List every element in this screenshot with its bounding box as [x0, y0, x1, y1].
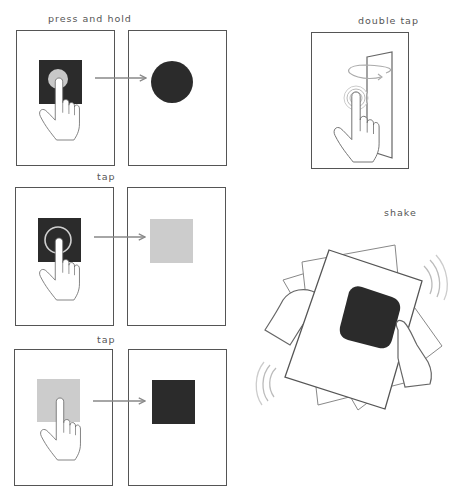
dark-circle-result	[151, 61, 193, 103]
motion-lines-icon	[270, 368, 276, 397]
double-tap-illustration	[334, 52, 392, 162]
shake-illustration	[256, 245, 447, 410]
tap2-before	[37, 379, 80, 460]
motion-lines-icon	[424, 266, 432, 294]
light-square-result	[150, 219, 193, 263]
gesture-illustrations	[0, 0, 452, 503]
dark-square-result	[152, 380, 195, 424]
tap1-before	[38, 218, 81, 300]
press-hold-before	[39, 60, 82, 140]
